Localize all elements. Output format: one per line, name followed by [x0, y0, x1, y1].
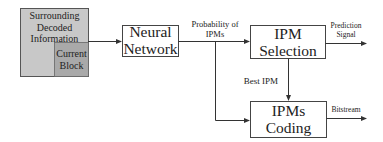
surrounding-info-label: Surrounding Decoded Information — [20, 10, 89, 45]
label-line: Network — [122, 40, 179, 57]
label-line: IPMs — [178, 30, 252, 40]
label-line: Surrounding — [20, 10, 89, 22]
ipms-coding-label: IPMs Coding — [250, 102, 327, 136]
label-line: Block — [54, 60, 89, 72]
probability-label: Probability of IPMs — [178, 20, 252, 40]
neural-network-label: Neural Network — [122, 23, 179, 57]
label-text: Best IPM — [244, 76, 278, 86]
best-ipm-label: Best IPM — [236, 76, 286, 86]
label-line: Coding — [250, 119, 327, 136]
label-line: Signal — [326, 31, 366, 40]
label-line: Selection — [250, 42, 326, 59]
label-line: Information — [20, 33, 89, 45]
ipm-selection-label: IPM Selection — [250, 25, 326, 59]
label-line: Decoded — [20, 22, 89, 34]
label-line: Current — [54, 48, 89, 60]
current-block-label: Current Block — [54, 48, 89, 71]
prediction-signal-label: Prediction Signal — [326, 22, 366, 39]
label-line: IPMs — [250, 102, 327, 119]
bitstream-label: Bitstream — [328, 106, 364, 115]
label-line: IPM — [250, 25, 326, 42]
label-line: Neural — [122, 23, 179, 40]
label-text: Bitstream — [331, 105, 360, 114]
